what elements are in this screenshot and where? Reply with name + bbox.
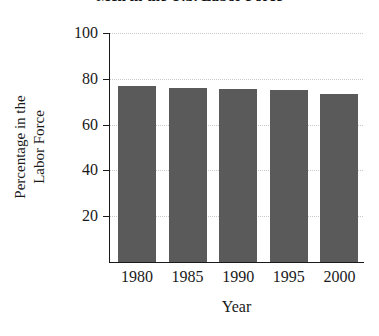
bar (270, 90, 308, 262)
plot-area (110, 33, 363, 262)
y-axis-title: Percentage in the Labor Force (11, 67, 49, 227)
y-axis-tick (103, 216, 110, 217)
x-axis-tick-label: 1985 (163, 268, 213, 286)
y-axis-tick-label: 20 (42, 208, 98, 224)
y-axis-tick (103, 125, 110, 126)
x-axis-line (109, 262, 364, 263)
chart-title: Men in the U.S. Labor Force (0, 0, 379, 5)
y-axis-tick (103, 170, 110, 171)
bar (169, 88, 207, 262)
x-axis-tick-label: 1990 (213, 268, 263, 286)
x-axis-tick-label: 2000 (314, 268, 364, 286)
x-axis-title: Year (110, 298, 363, 316)
gridline (110, 79, 363, 80)
y-axis-title-line-2: Labor Force (30, 67, 49, 227)
bar (118, 86, 156, 262)
bar-chart-figure: Men in the U.S. Labor Force Percentage i… (0, 0, 379, 336)
x-axis-tick-label: 1995 (264, 268, 314, 286)
gridline (110, 33, 363, 34)
y-axis-tick-label: 100 (42, 25, 98, 41)
y-axis-tick (103, 33, 110, 34)
y-axis-tick-label: 40 (42, 162, 98, 178)
bar (320, 94, 358, 262)
bar (219, 89, 257, 262)
y-axis-tick-label: 80 (42, 71, 98, 87)
y-axis-tick-label: 60 (42, 117, 98, 133)
x-axis-tick-label: 1980 (112, 268, 162, 286)
y-axis-title-line-1: Percentage in the (11, 67, 30, 227)
y-axis-tick (103, 79, 110, 80)
